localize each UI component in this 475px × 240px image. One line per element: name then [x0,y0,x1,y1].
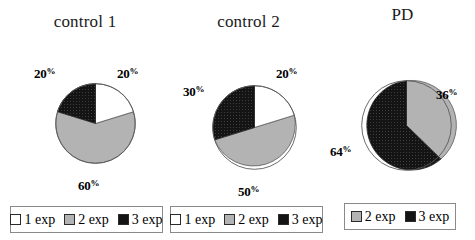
legend-swatch-gray-icon [224,214,235,225]
legend-control-1: 1 exp 2 exp 3 exp [10,206,163,233]
pie-chart-control-2 [212,85,297,170]
pie-chart-control-1 [55,83,136,164]
panel-control-2: control 2 30% 20% 50% 1 exp [166,0,331,240]
pie-svg-control-2 [212,85,297,170]
panel-pd: PD 36% 64% 2 exp 3 exp [330,0,475,240]
legend-swatch-gray-icon [64,214,75,225]
pie-label-2exp-control-1: 60% [78,178,99,194]
legend-label-2exp: 2 exp [238,213,269,227]
panel-control-1: control 1 20% 20% 60% 1 exp [0,0,170,240]
legend-item-3exp-pd[interactable]: 3 exp [405,210,450,224]
pie-label-1exp-control-1: 20% [117,66,138,82]
pie-label-3exp-control-2: 30% [183,84,204,100]
legend-swatch-black-icon [118,214,129,225]
pie-label-2exp-control-2: 50% [238,184,259,200]
pie-label-3exp-pd: 64% [330,144,351,160]
panel-title-pd: PD [330,5,475,25]
legend-label-1exp: 1 exp [184,213,215,227]
panel-title-control-2: control 2 [166,12,331,32]
legend-swatch-white-icon [10,214,21,225]
pie-label-1exp-control-2: 20% [276,66,297,82]
legend-label-2exp: 2 exp [365,210,396,224]
panel-title-control-1: control 1 [0,12,170,32]
pie-label-3exp-control-1: 20% [34,66,55,82]
legend-item-2exp-control-2[interactable]: 2 exp [224,213,269,227]
pie-svg-control-1 [55,83,136,164]
legend-item-3exp-control-1[interactable]: 3 exp [118,213,163,227]
legend-label-3exp: 3 exp [292,213,323,227]
legend-swatch-black-icon [278,214,289,225]
legend-label-3exp: 3 exp [132,213,163,227]
legend-swatch-white-icon [170,214,181,225]
legend-swatch-gray-icon [351,211,362,222]
legend-control-2: 1 exp 2 exp 3 exp [170,206,323,233]
legend-label-1exp: 1 exp [24,213,55,227]
legend-item-3exp-control-2[interactable]: 3 exp [278,213,323,227]
legend-item-2exp-control-1[interactable]: 2 exp [64,213,109,227]
legend-item-1exp-control-2[interactable]: 1 exp [170,213,215,227]
legend-swatch-black-icon [405,211,416,222]
legend-item-1exp-control-1[interactable]: 1 exp [10,213,55,227]
pie-label-2exp-pd: 36% [436,87,457,103]
legend-label-3exp: 3 exp [419,210,450,224]
legend-pd: 2 exp 3 exp [344,203,456,230]
legend-item-2exp-pd[interactable]: 2 exp [351,210,396,224]
legend-label-2exp: 2 exp [78,213,109,227]
